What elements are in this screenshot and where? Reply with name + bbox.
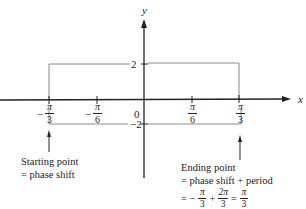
period-box — [49, 63, 241, 124]
x-tick-sign-neg-pi-6: − — [85, 108, 91, 120]
end-arrow — [238, 135, 242, 160]
start-annotation: Starting point = phase shift — [21, 155, 78, 181]
end-annotation-line3: = − π 3 + 2π 3 = π 3 — [181, 188, 273, 209]
y-tick-label-2: 2 — [131, 58, 137, 70]
end-annotation: Ending point = phase shift + period = − … — [181, 161, 273, 209]
x-tick-label-neg-pi-6: π 6 — [93, 102, 102, 125]
y-axis-label: y — [142, 4, 147, 16]
x-tick-label-pi-6: π 6 — [188, 102, 197, 125]
y-axis — [141, 19, 147, 178]
start-arrow — [47, 130, 51, 152]
origin-label: 0 — [134, 108, 140, 120]
start-annotation-line1: Starting point — [21, 155, 78, 168]
fraction-pi-3-result: π 3 — [240, 188, 248, 209]
x-axis — [0, 96, 291, 102]
x-axis-label: x — [298, 93, 303, 105]
fraction-2pi-3: 2π 3 — [218, 188, 228, 209]
x-tick-sign-neg-pi-3: − — [37, 108, 43, 120]
x-tick-label-neg-pi-3: π 3 — [45, 102, 54, 125]
fraction-pi-3: π 3 — [198, 188, 206, 209]
start-annotation-line2: = phase shift — [21, 168, 78, 181]
end-annotation-line2: = phase shift + period — [181, 174, 273, 187]
end-annotation-line1: Ending point — [181, 161, 273, 174]
x-tick-label-pi-3: π 3 — [236, 102, 245, 125]
